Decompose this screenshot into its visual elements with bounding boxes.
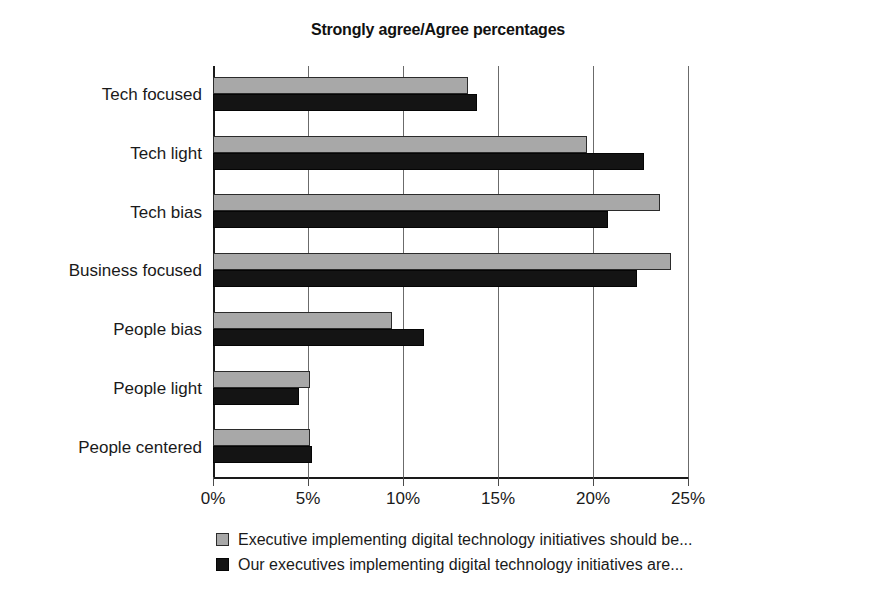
bar-series-a	[213, 429, 310, 446]
legend-swatch-icon	[216, 558, 229, 571]
x-tick-label: 15%	[458, 489, 538, 509]
legend-label: Executive implementing digital technolog…	[238, 531, 692, 549]
category-row: People light	[213, 360, 688, 419]
x-tick	[688, 477, 689, 486]
plot-area: Tech focusedTech lightTech biasBusiness …	[213, 66, 688, 477]
bar-series-b	[213, 329, 424, 346]
chart-title: Strongly agree/Agree percentages	[0, 21, 876, 39]
bar-series-b	[213, 388, 299, 405]
bar-series-a	[213, 312, 392, 329]
category-row: Business focused	[213, 242, 688, 301]
bar-series-a	[213, 136, 587, 153]
bar-series-b	[213, 153, 644, 170]
bar-series-a	[213, 77, 468, 94]
category-rows: Tech focusedTech lightTech biasBusiness …	[213, 66, 688, 477]
bar-series-a	[213, 371, 310, 388]
legend-item[interactable]: Executive implementing digital technolog…	[216, 527, 856, 552]
bar-series-b	[213, 446, 312, 463]
x-axis-line	[213, 477, 689, 479]
x-tick-label: 0%	[173, 489, 253, 509]
category-label: People light	[113, 379, 202, 399]
category-row: People bias	[213, 301, 688, 360]
x-tick-label: 25%	[648, 489, 728, 509]
x-tick-label: 20%	[553, 489, 633, 509]
x-tick	[593, 477, 594, 486]
bar-series-b	[213, 270, 637, 287]
bar-chart: Strongly agree/Agree percentages Tech fo…	[0, 0, 876, 604]
x-tick-label: 10%	[363, 489, 443, 509]
bar-series-a	[213, 253, 671, 270]
legend-label: Our executives implementing digital tech…	[238, 556, 684, 574]
category-label: People centered	[78, 438, 202, 458]
category-row: Tech light	[213, 125, 688, 184]
bar-series-b	[213, 211, 608, 228]
x-tick	[308, 477, 309, 486]
category-row: People centered	[213, 418, 688, 477]
bar-series-b	[213, 94, 477, 111]
x-tick	[403, 477, 404, 486]
category-row: Tech bias	[213, 183, 688, 242]
category-label: Business focused	[69, 261, 202, 281]
category-label: People bias	[113, 320, 202, 340]
legend-swatch-icon	[216, 533, 229, 546]
legend-item[interactable]: Our executives implementing digital tech…	[216, 552, 856, 577]
category-label: Tech bias	[130, 203, 202, 223]
category-row: Tech focused	[213, 66, 688, 125]
bar-series-a	[213, 194, 660, 211]
x-tick	[498, 477, 499, 486]
gridline	[688, 66, 689, 477]
x-tick-label: 5%	[268, 489, 348, 509]
category-label: Tech light	[130, 144, 202, 164]
category-label: Tech focused	[102, 85, 202, 105]
x-tick	[213, 477, 214, 486]
chart-legend: Executive implementing digital technolog…	[216, 527, 856, 577]
